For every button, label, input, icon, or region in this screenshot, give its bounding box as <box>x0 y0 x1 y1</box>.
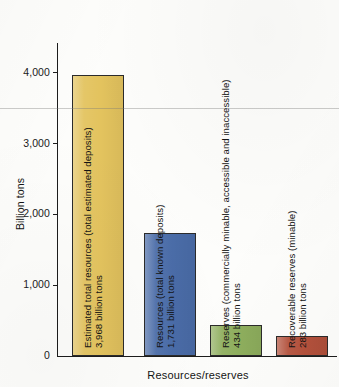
y-tick-mark <box>53 143 58 144</box>
bar-caption-estimated-total-resources: Estimated total resources (total estimat… <box>82 127 105 348</box>
bar-caption-resources-total-known-deposits: Resources (total known deposits) 1,731 b… <box>154 205 177 348</box>
y-tick-mark <box>53 214 58 215</box>
y-tick-mark <box>53 285 58 286</box>
x-axis-line <box>57 356 337 357</box>
y-axis-title: Billion tons <box>14 178 26 230</box>
bar-caption-recoverable-reserves-minable: Recoverable reserves (minable) 283 billi… <box>286 211 309 348</box>
bar-chart-figure: 4,0003,0002,0001,0000 Estimated total re… <box>0 0 339 387</box>
y-tick-mark <box>53 72 58 73</box>
y-tick-label: 4,000 <box>23 66 50 78</box>
y-tick-label: 3,000 <box>23 137 50 149</box>
y-tick-label: 0 <box>44 349 50 361</box>
x-axis-title: Resources/reserves <box>57 369 339 381</box>
y-tick-label: 1,000 <box>23 278 50 290</box>
bar-caption-reserves-commercially-minable: Reserves (commercially minable, accessib… <box>220 79 243 348</box>
y-tick-label: 2,000 <box>23 207 50 219</box>
plot-area: 4,0003,0002,0001,0000 Estimated total re… <box>0 0 339 387</box>
y-axis-line <box>57 43 58 356</box>
